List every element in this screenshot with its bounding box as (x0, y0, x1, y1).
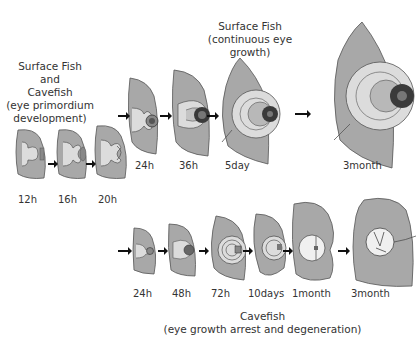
surface-5day-illustration (218, 56, 280, 166)
stage-label: 36h (179, 160, 198, 171)
arrow-icon (243, 247, 253, 255)
arrow-icon (199, 247, 209, 255)
arrow-icon (86, 160, 96, 168)
cavefish-48h-illustration (167, 222, 199, 278)
cavefish-title-line: Cavefish (150, 310, 375, 323)
cavefish-72h-illustration (208, 214, 248, 282)
stage-label: 24h (133, 288, 152, 299)
shared-title-line: Surface Fish (2, 60, 98, 73)
stage-label: 3month (343, 160, 382, 171)
cavefish-24h-illustration (132, 226, 158, 276)
arrow-icon (295, 110, 311, 118)
surface-24h-illustration (126, 76, 160, 156)
stage-12h-illustration (14, 128, 48, 180)
arrow-icon (207, 112, 219, 120)
arrow-icon (158, 247, 168, 255)
stage-label: 24h (135, 160, 154, 171)
stage-label: 16h (58, 194, 77, 205)
surface-title-line: Surface Fish (190, 20, 310, 33)
shared-title: Surface Fish and Cavefish (eye primordiu… (2, 60, 98, 125)
stage-label: 20h (98, 194, 117, 205)
stage-label: 12h (18, 194, 37, 205)
arrow-icon (118, 247, 132, 255)
surface-title: Surface Fish (continuous eye growth) (190, 20, 310, 59)
stage-label: 48h (172, 288, 191, 299)
stage-label: 3month (351, 288, 390, 299)
shared-title-line: and (2, 73, 98, 86)
shared-title-line: development) (2, 112, 98, 125)
surface-3month-illustration (328, 20, 418, 170)
stage-16h-illustration (55, 128, 89, 180)
arrow-icon (283, 247, 293, 255)
arrow-icon (160, 112, 172, 120)
arrow-icon (338, 247, 350, 255)
stage-label: 1month (292, 288, 331, 299)
stage-label: 5day (225, 160, 250, 171)
cavefish-3month-illustration (350, 196, 418, 288)
shared-title-line: Cavefish (2, 86, 98, 99)
cavefish-title-line: (eye growth arrest and degeneration) (150, 323, 375, 336)
shared-title-line: (eye primordium (2, 99, 98, 112)
stage-20h-illustration (93, 124, 129, 180)
cavefish-title: Cavefish (eye growth arrest and degenera… (150, 310, 375, 336)
stage-label: 72h (211, 288, 230, 299)
stage-label: 10days (248, 288, 284, 299)
arrow-icon (48, 160, 58, 168)
arrow-icon (118, 112, 130, 120)
cavefish-1month-illustration (290, 200, 340, 284)
